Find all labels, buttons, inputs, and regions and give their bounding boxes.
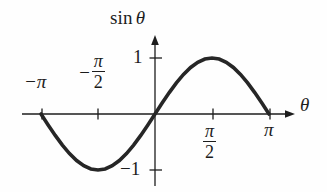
fraction-minus-sign: − <box>78 62 91 84</box>
fraction-numerator: π <box>203 122 216 141</box>
fraction-denominator: 2 <box>203 142 216 161</box>
fraction-denominator: 2 <box>92 72 105 91</box>
plot-canvas <box>0 0 327 192</box>
sine-function-figure: sinθ θ −π − π 2 π 2 π 1 −1 <box>0 0 327 192</box>
fraction-numerator: π <box>92 52 105 71</box>
y-axis-title: sinθ <box>110 8 145 27</box>
x-tick-label-neg-pi: −π <box>24 72 46 91</box>
y-tick-label-neg-one: −1 <box>120 159 140 178</box>
y-axis-title-function: sin <box>110 7 133 28</box>
fraction: π 2 <box>203 122 216 161</box>
x-tick-label-pi-over-2: π 2 <box>203 122 216 161</box>
fraction: π 2 <box>92 52 105 91</box>
y-tick-label-one: 1 <box>133 47 143 66</box>
y-axis-title-variable: θ <box>136 7 145 28</box>
x-tick-label-pi: π <box>264 120 274 139</box>
x-tick-label-neg-pi-over-2: − π 2 <box>78 52 105 91</box>
x-axis-title: θ <box>300 95 309 114</box>
